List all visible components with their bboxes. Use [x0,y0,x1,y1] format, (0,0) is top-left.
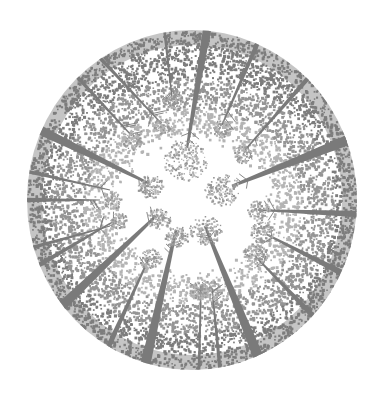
forest-canopy-illustration [0,0,385,405]
illustration-canvas [0,0,385,405]
canopy-circle [0,0,385,405]
